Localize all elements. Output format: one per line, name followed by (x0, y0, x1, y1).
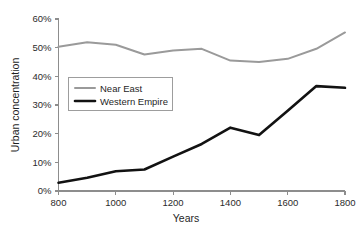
x-tick-label: 1000 (105, 197, 126, 208)
y-tick-label: 10% (32, 157, 52, 168)
y-axis-tick-labels: 0%10%20%30%40%50%60% (32, 13, 52, 196)
chart-legend: Near East Western Empire (69, 78, 173, 111)
line-chart: 0%10%20%30%40%50%60% 8001000120014001600… (0, 0, 364, 229)
y-tick-label: 40% (32, 71, 52, 82)
x-tick-label: 1200 (163, 197, 184, 208)
x-axis-title: Years (173, 212, 199, 224)
y-axis-title: Urban concentration (9, 58, 21, 153)
legend-label-western-empire: Western Empire (100, 96, 168, 107)
chart-container: 0%10%20%30%40%50%60% 8001000120014001600… (0, 0, 364, 229)
x-tick-label: 800 (51, 197, 67, 208)
y-tick-label: 50% (32, 42, 52, 53)
y-tick-label: 30% (32, 99, 52, 110)
x-axis-tick-labels: 80010001200140016001800 (51, 197, 356, 208)
y-tick-label: 60% (32, 13, 52, 24)
x-tick-label: 1400 (220, 197, 241, 208)
x-tick-label: 1800 (334, 197, 355, 208)
legend-label-near-east: Near East (100, 83, 143, 94)
x-tick-label: 1600 (277, 197, 298, 208)
y-tick-label: 0% (38, 185, 52, 196)
series-line-near-east (59, 32, 346, 62)
y-tick-label: 20% (32, 128, 52, 139)
